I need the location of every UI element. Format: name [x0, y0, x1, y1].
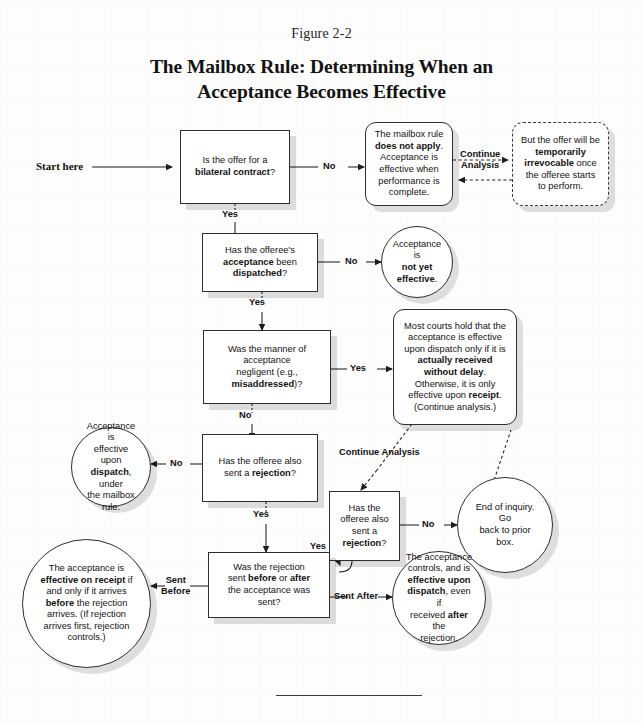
- figure-number: Figure 2-2: [0, 26, 643, 42]
- outcome-acceptance-controls: The acceptancecontrols, and iseffective …: [392, 551, 486, 645]
- edge-label-yes-1: Yes: [222, 209, 238, 220]
- decision-offeree-sent-rejection-side-text: Has theofferee alsosent arejection?: [336, 503, 392, 549]
- edge-label-no-3: No: [239, 410, 251, 421]
- edge-label-no-5: No: [422, 519, 434, 530]
- outcome-end-of-inquiry-text: End of inquiry. Goback to prior box.: [458, 502, 552, 548]
- edge-label-no-4: No: [170, 458, 182, 469]
- decision-negligent-manner: Was the manner ofacceptancenegligent (e.…: [203, 330, 331, 404]
- outcome-not-yet-effective: Acceptance isnot yeteffective.: [381, 226, 453, 298]
- decision-offeree-sent-rejection-main-text: Has the offeree alsosent a rejection?: [214, 456, 305, 479]
- page-title: The Mailbox Rule: Determining When an Ac…: [60, 54, 583, 104]
- note-temporarily-irrevocable: But the offer will betemporarilyirrevoca…: [512, 122, 609, 206]
- decision-offeree-sent-rejection-main: Has the offeree alsosent a rejection?: [202, 434, 318, 502]
- edge-label-continue-analysis-top: ContinueAnalysis: [460, 149, 500, 171]
- decision-acceptance-dispatched: Has the offeree'sacceptance beendispatch…: [202, 233, 318, 292]
- edge-label-sent-after: Sent After: [334, 591, 378, 602]
- outcome-effective-upon-dispatch-text: Acceptance iseffective upondispatch, und…: [72, 421, 150, 514]
- outcome-not-yet-effective-text: Acceptance isnot yeteffective.: [381, 239, 454, 285]
- figure-title-line-2: Acceptance Becomes Effective: [197, 81, 445, 102]
- decision-offeree-sent-rejection-side: Has theofferee alsosent arejection?: [329, 491, 400, 561]
- start-here-label: Start here: [36, 160, 83, 172]
- outcome-mailbox-rule-not-apply-text: The mailbox ruledoes not apply.Acceptanc…: [371, 129, 448, 199]
- edge-label-sent-before: SentBefore: [161, 575, 190, 597]
- outcome-acceptance-controls-text: The acceptancecontrols, and iseffective …: [393, 552, 485, 645]
- outcome-most-courts-hold: Most courts hold that theacceptance is e…: [393, 309, 517, 425]
- edge-label-yes-5: Yes: [310, 541, 326, 552]
- edge-label-yes-3: Yes: [350, 363, 366, 374]
- decision-bilateral-contract-text: Is the offer for abilateral contract?: [191, 155, 279, 178]
- edge-label-yes-4: Yes: [253, 509, 269, 520]
- outcome-effective-on-receipt-text: The acceptance iseffective on receipt if…: [29, 563, 145, 644]
- decision-acceptance-dispatched-text: Has the offeree'sacceptance beendispatch…: [219, 245, 301, 280]
- decision-negligent-manner-text: Was the manner ofacceptancenegligent (e.…: [224, 344, 310, 390]
- figure-title-line-1: The Mailbox Rule: Determining When an: [150, 56, 493, 77]
- edge-label-no-2: No: [345, 256, 357, 267]
- edge-label-no-1: No: [323, 161, 335, 172]
- footer-divider: [276, 695, 422, 696]
- outcome-most-courts-hold-text: Most courts hold that theacceptance is e…: [400, 321, 510, 414]
- decision-rejection-before-or-after: Was the rejectionsent before or afterthe…: [208, 552, 330, 618]
- figure-page: Figure 2-2 The Mailbox Rule: Determining…: [0, 0, 643, 723]
- decision-rejection-before-or-after-text: Was the rejectionsent before or afterthe…: [224, 562, 314, 608]
- outcome-mailbox-rule-not-apply: The mailbox ruledoes not apply.Acceptanc…: [365, 122, 453, 206]
- outcome-effective-on-receipt: The acceptance iseffective on receipt if…: [22, 539, 151, 668]
- decision-bilateral-contract: Is the offer for abilateral contract?: [180, 130, 290, 204]
- edge-label-yes-2: Yes: [249, 297, 265, 308]
- outcome-effective-upon-dispatch: Acceptance iseffective upondispatch, und…: [71, 427, 151, 507]
- note-temporarily-irrevocable-text: But the offer will betemporarilyirrevoca…: [517, 135, 604, 193]
- edge-label-continue-analysis-mid: Continue Analysis: [339, 447, 420, 458]
